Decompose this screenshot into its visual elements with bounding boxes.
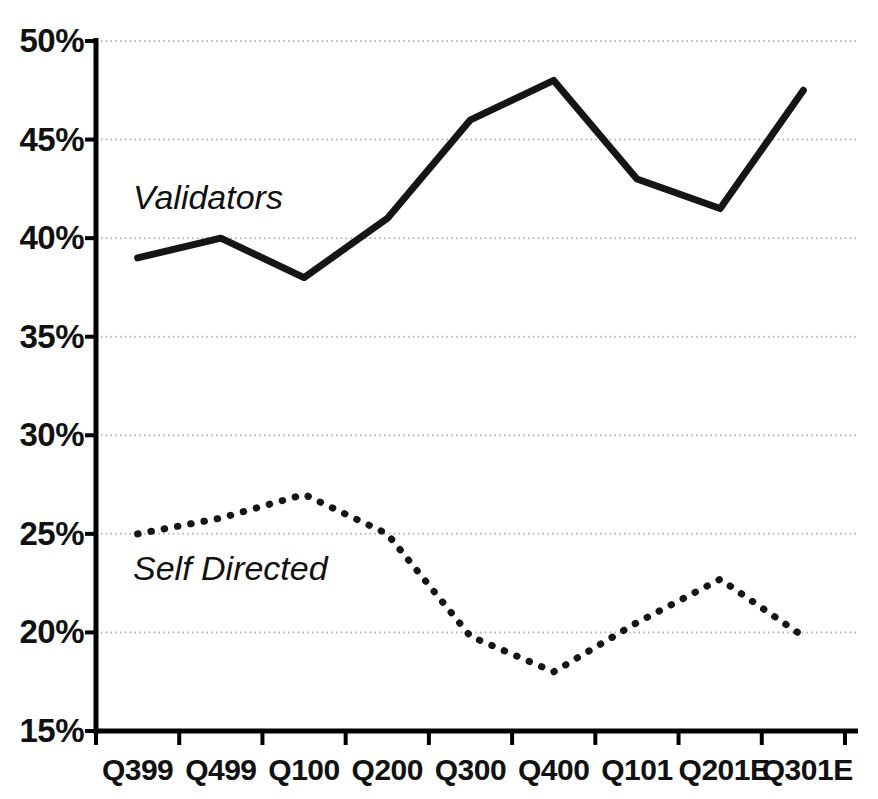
x-axis-tick-label: Q301E <box>762 755 845 785</box>
series-label-validators: Validators <box>133 180 283 214</box>
x-axis-tick-label: Q300 <box>429 755 512 785</box>
x-axis-tick-label: Q101 <box>595 755 678 785</box>
x-axis-tick-label: Q200 <box>346 755 429 785</box>
series-label-self-directed: Self Directed <box>133 551 328 585</box>
x-axis-tick-label: Q201E <box>679 755 762 785</box>
x-axis-tick-label: Q100 <box>262 755 345 785</box>
plot-area <box>0 0 878 799</box>
x-axis-tick-label: Q400 <box>512 755 595 785</box>
gridlines <box>96 41 858 731</box>
x-axis-tick-label: Q399 <box>96 755 179 785</box>
line-chart: 50% 45% 40% 35% 30% 25% 20% 15% Validato… <box>0 0 878 799</box>
x-axis-tick-label: Q499 <box>179 755 262 785</box>
